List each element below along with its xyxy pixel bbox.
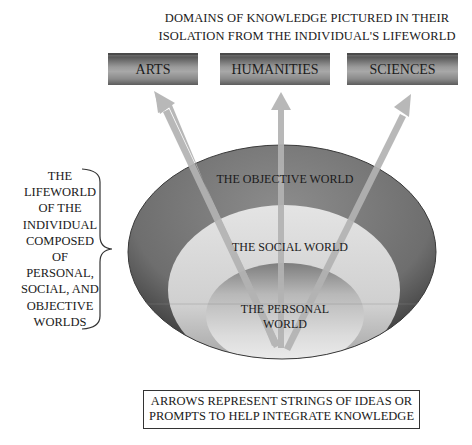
personal-world-label: THE PERSONAL WORLD <box>220 302 350 332</box>
personal-line-2: WORLD <box>220 317 350 332</box>
label-line: OF <box>20 249 100 265</box>
label-line: INDIVIDUAL <box>20 217 100 233</box>
social-world-label: THE SOCIAL WORLD <box>210 240 370 255</box>
legend-note-box: ARROWS REPRESENT STRINGS OF IDEAS OR PRO… <box>143 390 420 429</box>
arrow-to-humanities-icon <box>271 92 291 110</box>
objective-world-label: THE OBJECTIVE WORLD <box>200 172 370 187</box>
label-line: SOCIAL, AND <box>20 281 100 297</box>
label-line: COMPOSED <box>20 233 100 249</box>
label-line: WORLDS <box>20 314 100 330</box>
label-line: OF THE <box>20 200 100 216</box>
arrow-to-sciences-icon <box>394 94 411 117</box>
lifeworld-label: THE LIFEWORLD OF THE INDIVIDUAL COMPOSED… <box>20 168 100 330</box>
personal-line-1: THE PERSONAL <box>220 302 350 317</box>
note-line-1: ARROWS REPRESENT STRINGS OF IDEAS OR <box>144 394 419 409</box>
label-line: OBJECTIVE <box>20 298 100 314</box>
label-line: LIFEWORLD <box>20 184 100 200</box>
note-line-2: PROMPTS TO HELP INTEGRATE KNOWLEDGE <box>144 409 419 424</box>
label-line: PERSONAL, <box>20 265 100 281</box>
label-line: THE <box>20 168 100 184</box>
